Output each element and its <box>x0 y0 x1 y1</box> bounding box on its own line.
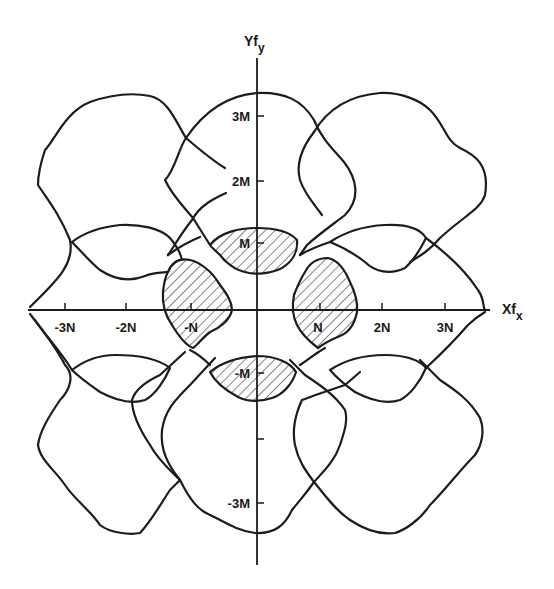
y-tick-label: 2M <box>232 174 250 189</box>
replica-cross-lr <box>300 348 325 365</box>
hatched-regions <box>163 228 357 401</box>
y-tick-label: -3M <box>228 496 250 511</box>
x-tick-labels: -3N -2N -N N 2N 3N <box>55 320 454 335</box>
replica-top-left-inner <box>186 138 225 168</box>
x-tick-label: -N <box>184 320 198 335</box>
replica-mid-right <box>330 225 426 272</box>
replica-bottom-center-left <box>162 358 215 480</box>
replica-top-center-left <box>165 138 210 245</box>
region-N <box>293 258 357 348</box>
region-neg-M <box>210 356 296 401</box>
x-tick-label: N <box>313 320 322 335</box>
y-tick-label: -M <box>235 366 250 381</box>
replica-top-right-inner <box>299 132 322 215</box>
x-tick-label: 2N <box>374 320 391 335</box>
replica-lower-right-diag <box>426 312 485 368</box>
y-axis-label: Yfy <box>244 33 265 55</box>
replica-outlines <box>30 93 486 534</box>
aliasing-diagram: Yfy Xfx -3N -2N -N N 2N 3N 3M 2M M -M -3… <box>0 0 554 589</box>
y-tick-label: 3M <box>232 109 250 124</box>
x-axis-label: Xfx <box>502 301 523 323</box>
x-tick-label: -2N <box>116 320 137 335</box>
replica-lower-mid-right <box>330 355 426 402</box>
axes <box>28 58 490 565</box>
x-tick-label: -3N <box>55 320 76 335</box>
y-tick-label: M <box>239 236 250 251</box>
replica-mid-left <box>72 225 182 280</box>
replica-bottom-left-inner <box>132 352 185 480</box>
axis-labels: Yfy Xfx <box>244 33 523 323</box>
region-M <box>210 228 297 274</box>
replica-bottom-left <box>30 314 180 534</box>
replica-right-diag <box>426 238 485 310</box>
x-tick-label: 3N <box>437 320 454 335</box>
replica-cross-ll <box>190 350 210 365</box>
